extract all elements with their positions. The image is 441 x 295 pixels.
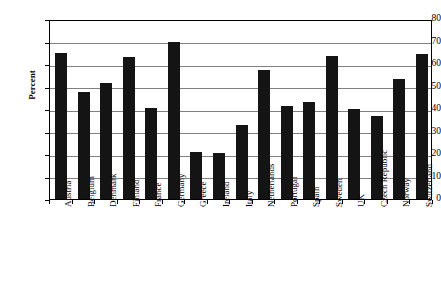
bar (123, 57, 135, 199)
x-tick-label: Austria (64, 181, 73, 208)
x-tick-label: Spain (312, 186, 321, 207)
y-tick-mark (45, 178, 49, 179)
y-tick-mark (45, 20, 49, 21)
y-tick-label: 40 (397, 104, 441, 114)
x-tick-label: Belgium (87, 176, 96, 207)
x-tick-mark (49, 200, 50, 204)
y-tick-label: 70 (397, 37, 441, 47)
x-tick-label: Netherlands (267, 164, 276, 207)
plot-area (49, 20, 432, 200)
bar (348, 109, 360, 199)
bar (55, 53, 67, 199)
x-tick-label: UK (357, 194, 366, 207)
bar-chart: Percent 01020304050607080 AustriaBelgium… (0, 0, 441, 295)
x-tick-label: Sweden (335, 179, 344, 208)
x-tick-label: Portugal (290, 177, 299, 208)
y-axis-title: Percent (27, 55, 37, 115)
y-tick-mark (45, 65, 49, 66)
x-tick-label: Czech Republic (380, 150, 389, 207)
y-tick-mark (45, 88, 49, 89)
x-tick-label: Greece (199, 182, 208, 207)
y-tick-mark (45, 155, 49, 156)
bar (236, 125, 248, 199)
y-tick-label: 50 (397, 82, 441, 92)
x-tick-label: Denmark (109, 174, 118, 208)
x-tick-label: Italy (245, 191, 254, 208)
y-tick-label: 20 (397, 149, 441, 159)
x-tick-label: Germany (177, 174, 186, 208)
x-tick-label: Switzerland (425, 164, 434, 207)
x-tick-label: France (154, 183, 163, 208)
y-tick-label: 80 (397, 14, 441, 24)
x-tick-label: Finland (132, 179, 141, 207)
y-tick-label: 60 (397, 59, 441, 69)
x-tick-label: Ireland (222, 182, 231, 207)
y-tick-mark (45, 43, 49, 44)
y-tick-label: 30 (397, 127, 441, 137)
y-tick-mark (45, 110, 49, 111)
x-tick-label: Norway (402, 178, 411, 207)
bar (303, 102, 315, 199)
y-tick-mark (45, 133, 49, 134)
